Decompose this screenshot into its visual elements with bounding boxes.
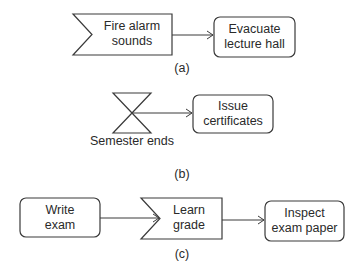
diagram-a: Fire alarm sounds Evacuate lecture hall …: [73, 14, 295, 75]
activity-label-line2: certificates: [203, 114, 263, 128]
activity-label-line2: lecture hall: [224, 37, 284, 51]
activity-diagram-canvas: Fire alarm sounds Evacuate lecture hall …: [0, 0, 362, 270]
accept-signal-fire-alarm: Fire alarm sounds: [73, 14, 172, 55]
time-event-label: Semester ends: [90, 134, 174, 148]
activity-label-line1: Issue: [218, 99, 248, 113]
flow-arrow-b: [132, 109, 192, 117]
activity-write-exam: Write exam: [20, 198, 100, 237]
activity-label-line1: Evacuate: [228, 22, 280, 36]
diagram-b: Semester ends Issue certificates (b): [90, 93, 273, 181]
activity-issue-certificates: Issue certificates: [193, 95, 273, 133]
flow-arrow-a: [172, 31, 213, 39]
time-event-semester-ends: Semester ends: [90, 93, 174, 148]
activity-inspect-exam-paper: Inspect exam paper: [265, 201, 344, 241]
accept-signal-label-line2: sounds: [112, 34, 152, 48]
activity-label-line2: exam: [45, 218, 76, 232]
caption-b: (b): [174, 167, 189, 181]
diagram-c: Write exam Learn grade Inspect exam pape…: [20, 198, 344, 261]
flow-arrow-c2: [222, 216, 264, 224]
activity-label-line1: Inspect: [284, 206, 325, 220]
accept-signal-label-line2: grade: [173, 218, 205, 232]
flow-arrow-c1: [100, 214, 159, 222]
accept-signal-label-line1: Fire alarm: [104, 19, 160, 33]
accept-signal-label-line1: Learn: [173, 203, 205, 217]
caption-c: (c): [175, 247, 190, 261]
activity-label-line2: exam paper: [271, 221, 337, 235]
caption-a: (a): [174, 61, 189, 75]
activity-label-line1: Write: [46, 203, 75, 217]
activity-evacuate-lecture-hall: Evacuate lecture hall: [214, 17, 295, 57]
